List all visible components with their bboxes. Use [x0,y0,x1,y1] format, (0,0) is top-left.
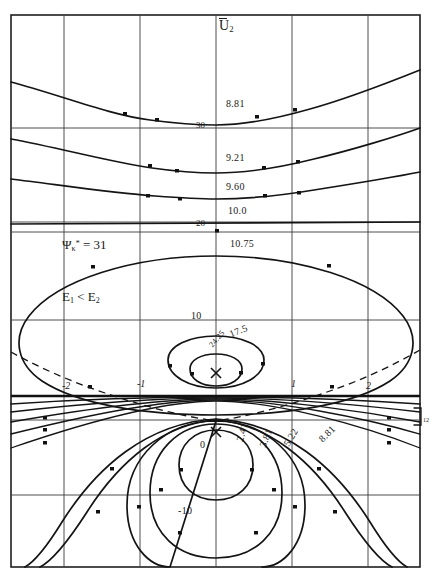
y-tick-label-0: 0 [200,440,205,450]
figure-container: .fr{fill:none;stroke:#1f1f1f;stroke-widt… [0,0,435,582]
contour-label-8-81-top: 8.81 [226,99,245,109]
annotation-psi-kappa: Ψκ* = 31 [62,238,107,253]
y-tick-label-20: 20 [196,219,205,228]
inequality-operator: < E [74,289,96,304]
contour-curve-8-81-top [11,70,420,125]
title-subscript: 2 [229,24,233,34]
psi-value: = 31 [80,237,107,252]
contour-label-9-60: 9.60 [226,182,245,192]
contour-label-10-0: 10.0 [228,206,247,216]
page-title: U2 [219,19,233,34]
contour-ellipse-24-25 [190,354,243,386]
x-tick-label-1: 1 [291,379,296,389]
x-tick-label-2: 2 [366,381,371,391]
contour-curve-9-60 [11,172,420,201]
contour-label-10: 10 [191,311,202,321]
contour-curve-9-21 [11,128,420,173]
psi-symbol: Ψ [62,237,72,252]
y-tick-label-30: 30 [196,121,205,130]
x-tick-label-minus-1: -1 [137,379,145,389]
title-symbol: U [219,19,229,33]
bracket-label: 12 [423,417,429,423]
separatrix-dashed-left [11,352,216,421]
y-tick-label-minus-10: -10 [178,506,192,516]
e1-symbol: E [62,289,70,304]
contour-label-9-21: 9.21 [226,153,245,163]
x-tick-label-minus-2: -2 [62,381,70,391]
annotation-energy-inequality: E1 < E2 [62,290,100,305]
e2-subscript: 2 [96,296,100,305]
contour-label-10-75: 10.75 [230,239,254,249]
vertical-gridlines [64,15,368,567]
tick-mark-20 [215,229,219,233]
